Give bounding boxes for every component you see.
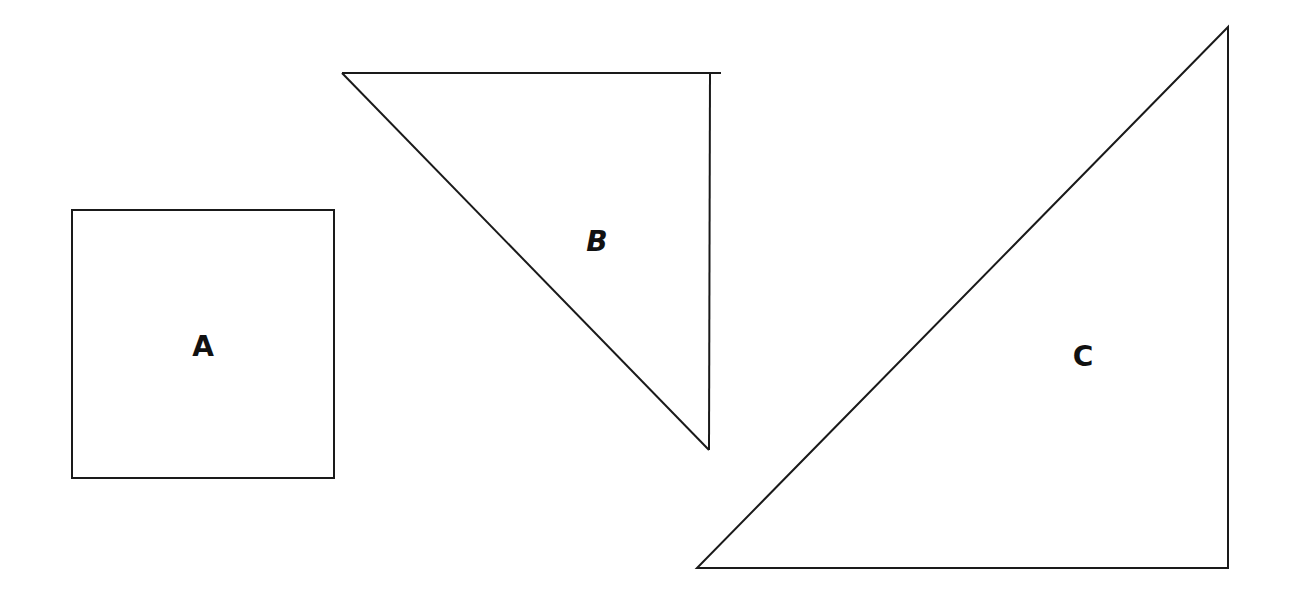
shape-b-triangle [342,73,721,450]
label-c: C [1073,340,1094,373]
diagram-canvas: A B C [0,0,1291,611]
label-a: A [192,330,214,363]
label-b: B [586,225,607,258]
shape-c-triangle [697,27,1228,568]
